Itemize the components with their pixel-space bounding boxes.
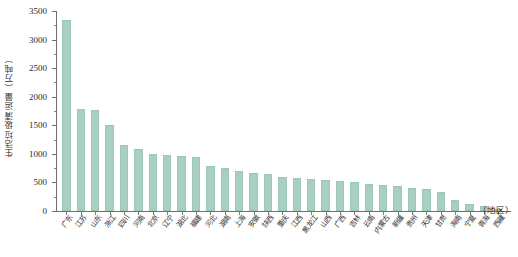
x-axis-tick-label-text: 重庆	[277, 214, 291, 230]
x-axis-unit-note: （地区）	[478, 203, 514, 215]
x-axis-tick-label-text: 天津	[421, 214, 435, 230]
x-axis-tick-label-text: 广东	[61, 214, 75, 230]
y-axis-title: 生活垃圾清运量（万吨）	[2, 0, 18, 211]
x-axis-tick-label-text: 河南	[133, 214, 147, 230]
x-axis-tick-label-text: 宁夏	[464, 214, 478, 230]
x-axis-tick-label-text: 辽宁	[162, 214, 176, 230]
y-axis-title-text: 生活垃圾清运量（万吨）	[6, 54, 15, 157]
bar	[105, 125, 113, 211]
x-axis-tick-label-text: 福建	[190, 214, 204, 230]
chart-figure: 生活垃圾清运量（万吨） 0500100015002000250030003500…	[0, 0, 518, 257]
x-axis-tick-label-text: 吉林	[349, 214, 363, 230]
x-axis-tick-label-text: 广西	[334, 214, 348, 230]
x-axis-tick-label-text: 湖北	[176, 214, 190, 230]
y-axis-tick-label: 3500	[29, 6, 47, 16]
bar	[120, 145, 128, 211]
y-axis-tick-label: 1000	[29, 149, 47, 159]
x-axis-tick-label-text: 北京	[147, 214, 161, 230]
y-axis-tick-label: 1500	[29, 120, 47, 130]
x-axis-tick-label-text: 浙江	[104, 214, 118, 230]
x-axis-tick-label-text: 湖南	[219, 214, 233, 230]
y-axis-major-tick-mark	[52, 211, 56, 212]
bar	[62, 20, 70, 211]
bar	[77, 109, 85, 211]
x-axis-tick-label-text: 山东	[90, 214, 104, 230]
y-axis-major-tick: 0	[56, 211, 57, 212]
x-axis-tick-label-text: 河北	[205, 214, 219, 230]
y-axis-tick-label: 2000	[29, 92, 47, 102]
y-axis-tick-label: 3000	[29, 35, 47, 45]
x-axis-tick-labels: 广东江苏山东浙江四川河南北京辽宁湖北福建河北湖南上海安徽陕西重庆江西黑龙江山西广…	[0, 214, 518, 257]
x-axis-tick-label-text: 山西	[320, 214, 334, 230]
x-axis-tick-label-text: 上海	[234, 214, 248, 230]
x-axis-tick-label-text: 新疆	[392, 214, 406, 230]
x-axis-tick-label-text: 海南	[450, 214, 464, 230]
x-axis-tick-label-text: 甘肃	[435, 214, 449, 230]
bar	[91, 110, 99, 211]
bar-series	[56, 11, 511, 211]
y-axis-tick-label: 2500	[29, 63, 47, 73]
x-axis-tick-label-text: 江苏	[75, 214, 89, 230]
x-axis-tick-label-text: 青海	[478, 214, 492, 230]
x-axis-tick-label-text: 贵州	[406, 214, 420, 230]
x-axis-tick-label-text: 安徽	[248, 214, 262, 230]
x-axis-tick-label-text: 西藏	[493, 214, 507, 230]
bar	[134, 149, 142, 211]
y-axis-tick-label: 500	[34, 177, 48, 187]
x-axis-tick-label-text: 四川	[118, 214, 132, 230]
x-axis-tick-label-text: 陕西	[262, 214, 276, 230]
